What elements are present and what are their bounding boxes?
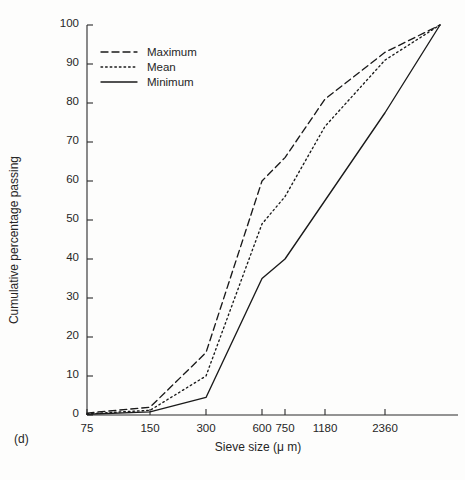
y-tick-label: 10 (45, 368, 79, 380)
chart-legend: MaximumMeanMinimum (100, 44, 197, 89)
x-tick-label: 1180 (313, 422, 338, 434)
chart-plot-area: 0102030405060708090100 75150300600750118… (0, 0, 465, 480)
y-tick-label: 80 (45, 95, 79, 107)
legend-item-mean[interactable]: Mean (100, 59, 197, 74)
x-axis-title: Sieve size (μ m) (215, 440, 301, 454)
panel-label: (d) (14, 432, 29, 446)
legend-swatch-dashed-icon (100, 46, 138, 58)
y-tick-label: 40 (45, 251, 79, 263)
y-tick-label: 70 (45, 134, 79, 146)
legend-label: Mean (147, 61, 176, 73)
legend-swatch-dotted-icon (100, 61, 138, 73)
y-tick-label: 90 (45, 56, 79, 68)
y-tick-label: 30 (45, 290, 79, 302)
figure-panel-d: 0102030405060708090100 75150300600750118… (0, 0, 465, 480)
legend-swatch-solid-icon (100, 76, 138, 88)
legend-item-maximum[interactable]: Maximum (100, 44, 197, 59)
x-tick-label: 750 (275, 422, 294, 434)
y-tick-label: 100 (45, 17, 79, 29)
y-tick-label: 50 (45, 212, 79, 224)
x-tick-label: 75 (81, 422, 94, 434)
y-axis-title: Cumulative percentage passing (7, 156, 21, 324)
x-tick-label: 2360 (372, 422, 398, 434)
y-tick-label: 20 (45, 329, 79, 341)
legend-label: Maximum (147, 46, 197, 58)
y-tick-label: 60 (45, 173, 79, 185)
x-tick-label: 600 (252, 422, 271, 434)
legend-label: Minimum (147, 76, 194, 88)
x-tick-label: 300 (196, 422, 215, 434)
legend-item-minimum[interactable]: Minimum (100, 74, 197, 89)
y-tick-label: 0 (45, 407, 79, 419)
y-axis-ticks (87, 25, 93, 415)
x-tick-label: 150 (140, 422, 159, 434)
